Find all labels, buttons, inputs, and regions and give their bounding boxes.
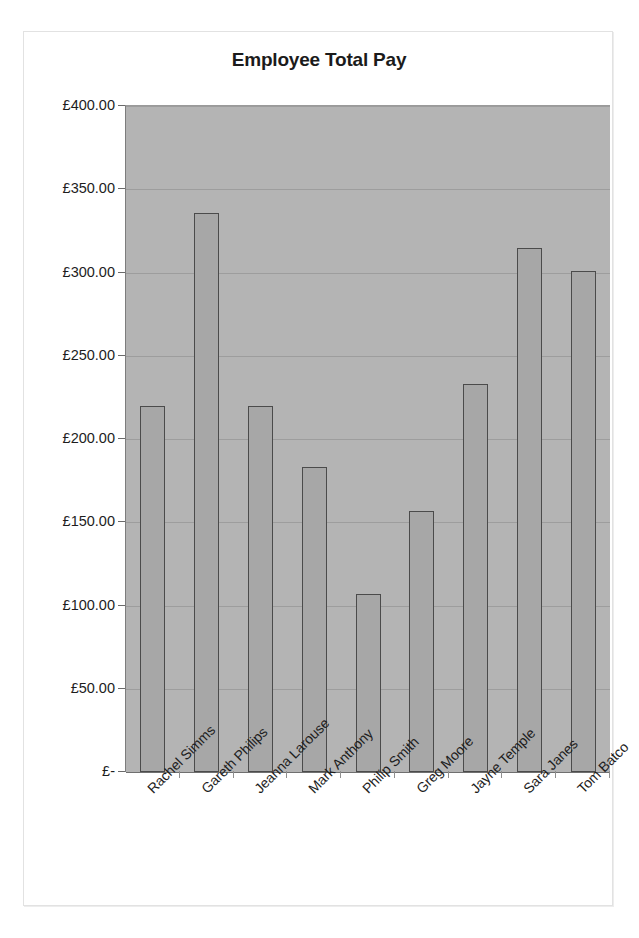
x-axis-tick-mark — [340, 771, 341, 778]
y-axis-tick-label: £250.00 — [25, 347, 115, 363]
y-axis-tick-label: £400.00 — [25, 97, 115, 113]
x-axis-tick-mark — [448, 771, 449, 778]
chart-frame: Employee Total Pay £-£50.00£100.00£150.0… — [23, 31, 613, 906]
y-axis-tick-label: £350.00 — [25, 180, 115, 196]
y-axis-tick-mark — [118, 188, 125, 189]
gridline — [126, 106, 610, 107]
bar — [517, 248, 542, 772]
y-axis-tick-mark — [118, 355, 125, 356]
y-axis-tick-mark — [118, 521, 125, 522]
gridline — [126, 189, 610, 190]
y-axis-tick-label: £100.00 — [25, 597, 115, 613]
x-axis-tick-mark — [394, 771, 395, 778]
x-axis-tick-mark — [286, 771, 287, 778]
y-axis-tick-label: £200.00 — [25, 430, 115, 446]
x-axis-tick-mark — [501, 771, 502, 778]
plot-area — [125, 105, 610, 772]
bar — [409, 511, 434, 772]
y-axis-tick-mark — [118, 438, 125, 439]
x-axis-tick-mark — [233, 771, 234, 778]
bar — [571, 271, 596, 772]
chart-title: Employee Total Pay — [24, 49, 614, 71]
bar — [140, 406, 165, 772]
y-axis-tick-mark — [118, 771, 125, 772]
x-axis-tick-mark — [179, 771, 180, 778]
bar — [463, 384, 488, 772]
y-axis-tick-label: £- — [25, 763, 115, 779]
x-axis-tick-mark — [609, 771, 610, 778]
y-axis-tick-mark — [118, 688, 125, 689]
bar — [248, 406, 273, 772]
y-axis-tick-label: £300.00 — [25, 264, 115, 280]
y-axis-tick-label: £150.00 — [25, 513, 115, 529]
bar — [194, 213, 219, 772]
y-axis-tick-label: £50.00 — [25, 680, 115, 696]
y-axis-tick-mark — [118, 272, 125, 273]
x-axis-tick-mark — [555, 771, 556, 778]
y-axis-tick-mark — [118, 105, 125, 106]
y-axis-tick-mark — [118, 605, 125, 606]
